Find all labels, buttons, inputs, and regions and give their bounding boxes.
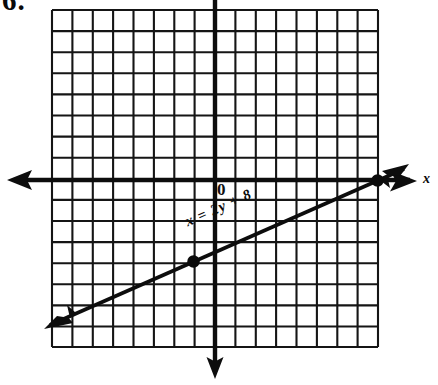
problem-number-label: 6.	[2, 0, 26, 15]
x-axis-label: x	[423, 172, 430, 186]
plotted-line-group	[44, 164, 409, 329]
plotted-point-x-intercept	[371, 174, 383, 186]
x-axis-group	[7, 170, 417, 192]
plotted-line	[50, 169, 404, 325]
plotted-point-y-intercept	[187, 255, 199, 267]
graph-figure: 6. 0 x x = 2y + 8	[0, 0, 438, 385]
